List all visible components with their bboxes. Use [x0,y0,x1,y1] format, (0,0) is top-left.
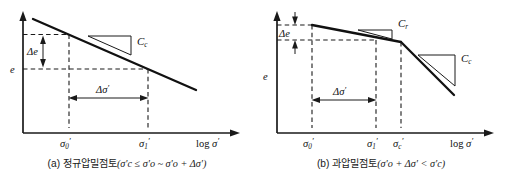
caption-a-tag: (a) [48,158,60,169]
caption-b: (b) 과압밀점토(σ'o + Δσ' < σ'c) [254,155,508,170]
chart-b-svg: Δe Δσ′ Cr Cc e σ0′ σ1′ σc′ [254,0,508,155]
caption-a-soil-type: 정규압밀점토 [63,158,117,169]
x-axis-a [23,129,240,136]
delta-e-label-b: Δe [278,28,290,39]
panel-normally-consolidated: Δe Δσ′ Cc e σ0′ σ1′ log σ′ (a) 정규압밀점토 [0,0,254,183]
caption-b-formula: (σ'o + Δσ' < σ'c) [377,158,445,169]
virgin-compression-branch-b [401,42,454,95]
delta-sigma-label-b: Δσ′ [332,85,347,97]
x-axis-label-b: log σ′ [450,136,474,149]
y-axis-label-a: e [10,64,15,75]
panel-overconsolidated: Δe Δσ′ Cr Cc e σ0′ σ1′ σc′ [254,0,508,183]
delta-sigma-arrow-a [69,95,149,101]
x-axis-b [277,129,494,136]
x-tick-sigma1-b: σ1′ [367,136,379,151]
caption-a-formula: (σ'c ≤ σ'o ~ σ'o + Δσ') [117,158,207,169]
slope-triangle-cc-b [418,55,455,86]
caption-a: (a) 정규압밀점토(σ'c ≤ σ'o ~ σ'o + Δσ') [0,155,254,170]
y-axis-label-b: e [263,71,268,82]
x-axis-label-a: log σ′ [196,136,220,149]
cr-label-b: Cr [398,17,408,31]
delta-e-arrow-a [40,36,46,68]
delta-sigma-arrow-b [312,97,377,103]
x-tick-sigma1-a: σ1′ [139,136,151,151]
delta-e-arrow-b [292,12,298,54]
caption-b-soil-type: 과압밀점토 [332,158,377,169]
chart-a-svg: Δe Δσ′ Cc e σ0′ σ1′ log σ′ [0,0,254,155]
cc-label-a: Cc [137,35,148,49]
y-axis-a [19,11,26,133]
x-tick-sigma0-a: σ0′ [60,136,72,151]
delta-e-label-a: Δe [26,46,38,57]
virgin-compression-line-a [33,19,196,90]
caption-b-tag: (b) [317,158,329,169]
figure-root: Δe Δσ′ Cc e σ0′ σ1′ log σ′ (a) 정규압밀점토 [0,0,508,183]
cc-label-b: Cc [461,52,472,66]
delta-sigma-label-a: Δσ′ [95,83,110,95]
x-tick-sigma0-b: σ0′ [303,136,315,151]
x-tick-sigmac-b: σc′ [393,136,404,151]
